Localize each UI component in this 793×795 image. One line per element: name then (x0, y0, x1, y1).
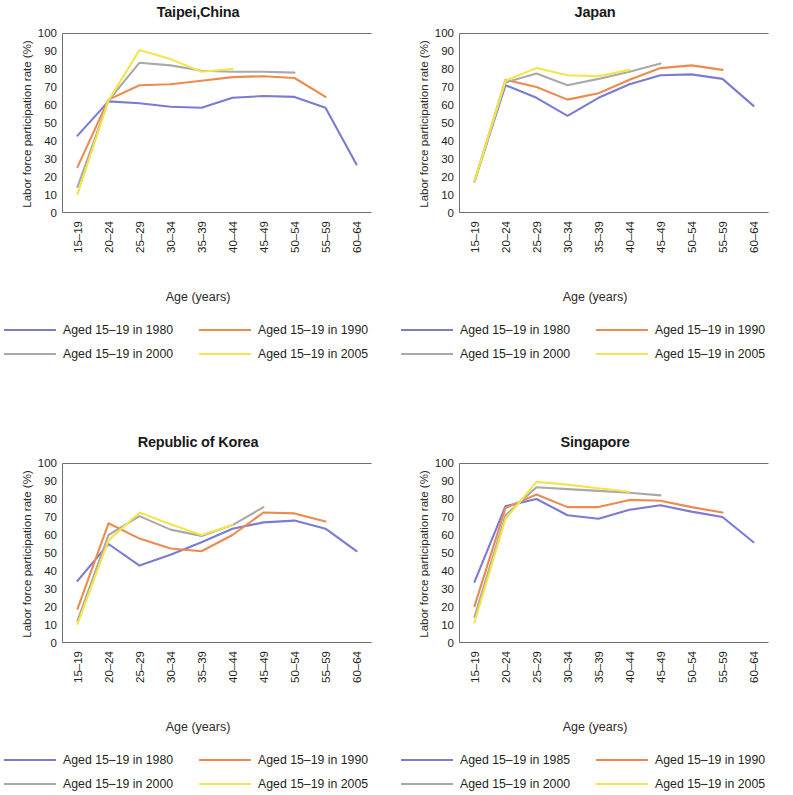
page-title: Japan (397, 4, 793, 20)
legend-line-swatch-icon (199, 353, 251, 355)
x-axis-tick-label: 45–49 (258, 651, 270, 683)
legend-item-label: Aged 15–19 in 1990 (258, 753, 368, 767)
axis-frame (460, 34, 769, 213)
plot-canvas (62, 33, 372, 213)
page-title: Singapore (397, 434, 793, 450)
y-axis-tick-label: 80 (441, 63, 454, 75)
legend-item[interactable]: Aged 15–19 in 1985 (401, 753, 596, 767)
x-axis-tick-label: 15–19 (469, 221, 481, 253)
y-axis-tick-label: 0 (51, 637, 57, 649)
y-axis-tick-label: 80 (44, 63, 57, 75)
y-axis-tick-label: 100 (38, 457, 57, 469)
y-axis-tick-label: 0 (51, 207, 57, 219)
x-axis-tick-label: 40–44 (227, 221, 239, 253)
legend-line-swatch-icon (596, 329, 648, 331)
legend-item[interactable]: Aged 15–19 in 2000 (4, 777, 199, 791)
y-axis-label: Labor force participation rate (%) (418, 34, 430, 214)
data-series-line (475, 65, 723, 181)
legend-item[interactable]: Aged 15–19 in 1990 (596, 323, 791, 337)
legend-item[interactable]: Aged 15–19 in 2005 (199, 347, 394, 361)
legend-item[interactable]: Aged 15–19 in 1990 (199, 753, 394, 767)
legend-row: Aged 15–19 in 1980Aged 15–19 in 1990 (401, 318, 791, 342)
axis-frame (63, 464, 372, 643)
x-axis-tick-label: 60–64 (351, 651, 363, 683)
legend-item[interactable]: Aged 15–19 in 2005 (596, 777, 791, 791)
x-axis-tick-label: 20–24 (500, 221, 512, 253)
data-series-line (475, 64, 661, 182)
legend: Aged 15–19 in 1985Aged 15–19 in 1990Aged… (401, 748, 791, 795)
data-series-line (78, 513, 326, 609)
x-axis-tick-label: 55–59 (717, 651, 729, 683)
plot-canvas (62, 463, 372, 643)
legend-item[interactable]: Aged 15–19 in 2000 (401, 777, 596, 791)
data-series-line (475, 68, 630, 181)
legend-line-swatch-icon (401, 783, 453, 785)
legend-row: Aged 15–19 in 2000Aged 15–19 in 2005 (4, 342, 394, 366)
plot-area: 010203040506070809010015–1920–2425–2930–… (459, 463, 769, 643)
y-axis-tick-label: 50 (441, 547, 454, 559)
y-axis-tick-label: 40 (441, 565, 454, 577)
x-axis-tick-label: 30–34 (165, 221, 177, 253)
legend-line-swatch-icon (199, 759, 251, 761)
legend-line-swatch-icon (401, 353, 453, 355)
x-axis-tick-label: 35–39 (196, 221, 208, 253)
legend-item[interactable]: Aged 15–19 in 2000 (4, 347, 199, 361)
y-axis-tick-label: 100 (38, 27, 57, 39)
x-axis-tick-label: 20–24 (103, 221, 115, 253)
legend-item-label: Aged 15–19 in 2000 (460, 347, 570, 361)
y-axis-tick-label: 30 (441, 153, 454, 165)
legend-line-swatch-icon (4, 353, 56, 355)
x-axis-tick-label: 25–29 (531, 221, 543, 253)
y-axis-tick-label: 90 (441, 475, 454, 487)
plot-area: 010203040506070809010015–1920–2425–2930–… (62, 33, 372, 213)
y-axis-tick-label: 100 (435, 27, 454, 39)
legend-item[interactable]: Aged 15–19 in 1980 (4, 753, 199, 767)
y-axis-tick-label: 70 (441, 81, 454, 93)
legend-item-label: Aged 15–19 in 1985 (460, 753, 570, 767)
legend-item[interactable]: Aged 15–19 in 2000 (401, 347, 596, 361)
y-axis-tick-label: 50 (44, 547, 57, 559)
legend-item[interactable]: Aged 15–19 in 1980 (4, 323, 199, 337)
legend-item[interactable]: Aged 15–19 in 1980 (401, 323, 596, 337)
legend-line-swatch-icon (401, 329, 453, 331)
x-axis-tick-label: 25–29 (531, 651, 543, 683)
legend-row: Aged 15–19 in 2000Aged 15–19 in 2005 (4, 772, 394, 795)
x-axis-tick-label: 60–64 (748, 221, 760, 253)
y-axis-tick-label: 90 (44, 475, 57, 487)
legend-item-label: Aged 15–19 in 1990 (258, 323, 368, 337)
x-axis-tick-label: 45–49 (655, 221, 667, 253)
legend-item[interactable]: Aged 15–19 in 1990 (199, 323, 394, 337)
y-axis-tick-label: 10 (44, 189, 57, 201)
chart-panel-singapore: Singapore Labor force participation rate… (397, 430, 793, 795)
legend-item[interactable]: Aged 15–19 in 2005 (199, 777, 394, 791)
legend-item-label: Aged 15–19 in 1980 (63, 753, 173, 767)
data-series-line (78, 513, 233, 625)
legend: Aged 15–19 in 1980Aged 15–19 in 1990Aged… (401, 318, 791, 366)
x-axis-tick-label: 15–19 (72, 221, 84, 253)
legend-item[interactable]: Aged 15–19 in 1990 (596, 753, 791, 767)
y-axis-tick-label: 60 (44, 529, 57, 541)
y-axis-tick-label: 40 (44, 565, 57, 577)
x-axis-label: Age (years) (397, 290, 793, 304)
x-axis-tick-label: 60–64 (351, 221, 363, 253)
y-axis-tick-label: 30 (441, 583, 454, 595)
x-axis-tick-label: 30–34 (165, 651, 177, 683)
x-axis-tick-label: 45–49 (655, 651, 667, 683)
y-axis-tick-label: 20 (441, 171, 454, 183)
y-axis-tick-label: 30 (44, 583, 57, 595)
legend-item-label: Aged 15–19 in 1980 (460, 323, 570, 337)
legend-line-swatch-icon (596, 759, 648, 761)
plot-canvas (459, 33, 769, 213)
x-axis-tick-label: 35–39 (593, 651, 605, 683)
y-axis-tick-label: 0 (448, 637, 454, 649)
y-axis-tick-label: 50 (44, 117, 57, 129)
x-axis-tick-label: 50–54 (686, 221, 698, 253)
legend-item[interactable]: Aged 15–19 in 2005 (596, 347, 791, 361)
x-axis-tick-label: 60–64 (748, 651, 760, 683)
y-axis-tick-label: 20 (44, 171, 57, 183)
y-axis-tick-label: 10 (441, 189, 454, 201)
legend-line-swatch-icon (596, 783, 648, 785)
y-axis-tick-label: 40 (441, 135, 454, 147)
data-series-line (78, 96, 357, 164)
x-axis-label: Age (years) (0, 720, 396, 734)
